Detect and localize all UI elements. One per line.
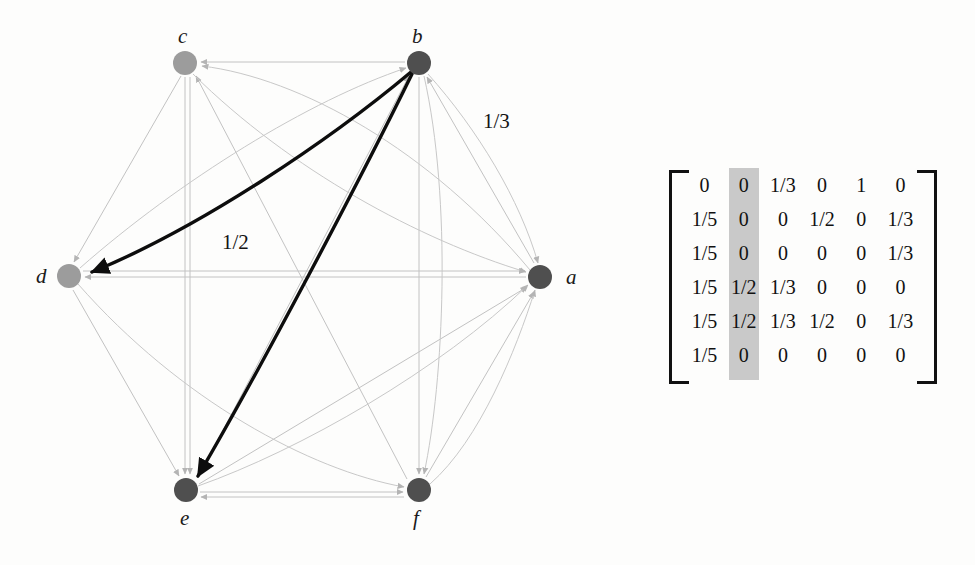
matrix-cell: 0 [724, 236, 763, 270]
matrix-cell: 1/2 [724, 270, 763, 304]
transition-matrix-panel: 0 0 1/3 0 1 0 1/5 0 0 1/2 0 1/3 [655, 160, 955, 390]
matrix-table: 0 0 1/3 0 1 0 1/5 0 0 1/2 0 1/3 [685, 168, 920, 372]
highlight-edge-group [92, 72, 412, 476]
node-label-a: a [566, 267, 577, 288]
matrix-cell: 0 [881, 338, 920, 372]
matrix-cell: 1/2 [724, 304, 763, 338]
node-a[interactable] [528, 265, 552, 289]
matrix-cell: 0 [724, 202, 763, 236]
matrix-cell: 1/2 [802, 304, 841, 338]
edge-b-to-f-curve [424, 76, 442, 474]
node-b[interactable] [407, 51, 431, 75]
matrix-cell: 1/5 [685, 270, 724, 304]
matrix-cell: 0 [842, 202, 881, 236]
edge-f-to-a [426, 292, 534, 477]
node-label-f: f [413, 508, 419, 529]
matrix-cell: 1/5 [685, 236, 724, 270]
table-row: 1/5 0 0 0 0 0 [685, 338, 920, 372]
matrix-cell: 1/3 [763, 168, 802, 202]
matrix-cell: 0 [763, 236, 802, 270]
matrix-right-bracket [917, 170, 937, 384]
matrix-cell: 0 [724, 168, 763, 202]
edge-d-to-e [73, 290, 179, 476]
graph-panel: c b d a e f 1/3 1/2 [0, 0, 620, 565]
matrix-cell: 0 [842, 338, 881, 372]
edge-a-to-b [427, 77, 534, 263]
table-row: 1/5 0 0 0 0 1/3 [685, 236, 920, 270]
matrix-cell: 0 [763, 338, 802, 372]
edge-weight-one-third: 1/3 [483, 111, 510, 132]
matrix-cell: 0 [842, 236, 881, 270]
matrix-cell: 1/5 [685, 338, 724, 372]
node-d[interactable] [57, 264, 81, 288]
matrix-cell: 0 [763, 202, 802, 236]
node-c[interactable] [173, 51, 197, 75]
matrix-cell: 1/3 [881, 236, 920, 270]
node-label-e: e [180, 508, 189, 529]
edge-weight-one-half: 1/2 [222, 232, 249, 253]
matrix-cell: 1/3 [881, 304, 920, 338]
matrix-cell: 1/5 [685, 202, 724, 236]
node-label-d: d [36, 266, 47, 287]
matrix-cell: 1/3 [763, 304, 802, 338]
matrix-cell: 0 [724, 338, 763, 372]
matrix-cell: 0 [685, 168, 724, 202]
matrix-cell: 0 [802, 338, 841, 372]
node-e[interactable] [174, 478, 198, 502]
edge-b-to-a-curve [428, 74, 538, 263]
matrix-cell: 1 [842, 168, 881, 202]
matrix-cell: 0 [881, 168, 920, 202]
matrix-cell: 0 [802, 270, 841, 304]
matrix-cell: 1/3 [881, 202, 920, 236]
edge-c-to-d [74, 76, 181, 262]
matrix-cell: 0 [842, 304, 881, 338]
matrix-cell: 0 [802, 168, 841, 202]
figure-canvas: c b d a e f 1/3 1/2 0 0 1/3 0 1 [0, 0, 975, 565]
matrix-cell: 0 [881, 270, 920, 304]
graph-diagram [0, 0, 620, 565]
matrix-cell: 1/2 [802, 202, 841, 236]
matrix-cell: 0 [802, 236, 841, 270]
matrix-cell: 0 [842, 270, 881, 304]
matrix-cell: 1/5 [685, 304, 724, 338]
node-label-b: b [412, 26, 423, 47]
node-label-c: c [178, 26, 187, 47]
faint-edge-group [73, 62, 534, 497]
table-row: 1/5 1/2 1/3 1/2 0 1/3 [685, 304, 920, 338]
table-row: 1/5 0 0 1/2 0 1/3 [685, 202, 920, 236]
matrix-cell: 1/3 [763, 270, 802, 304]
table-row: 0 0 1/3 0 1 0 [685, 168, 920, 202]
table-row: 1/5 1/2 1/3 0 0 0 [685, 270, 920, 304]
edge-f-to-a-curve [430, 290, 535, 484]
node-f[interactable] [407, 478, 431, 502]
